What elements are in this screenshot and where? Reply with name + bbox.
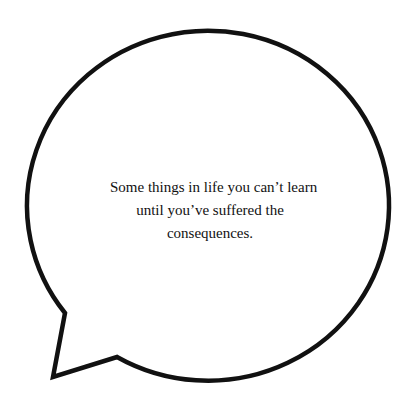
quote-line-2: until you’ve suffered the	[110, 199, 310, 222]
quote-line-1: Some things in life you can’t learn	[110, 176, 310, 199]
quote-text: Some things in life you can’t learn unti…	[110, 176, 310, 245]
quote-line-3: consequences.	[110, 222, 310, 245]
